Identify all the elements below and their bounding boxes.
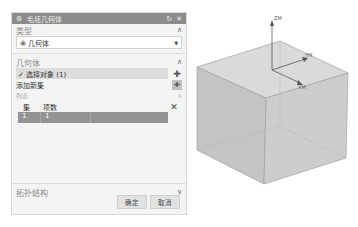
table-row[interactable]: 1 1 <box>18 112 168 123</box>
cancel-button[interactable]: 取消 <box>150 195 180 209</box>
select-object-row[interactable]: ✓ 选择对象 (1) ✚ <box>12 68 186 79</box>
chevron-up-icon[interactable]: ∧ <box>177 58 182 66</box>
section-geometry-label: 几何体 <box>16 57 40 68</box>
blank-geometry-dialog: ⚙ 毛坯几何体 ↻ ✕ 类型 ∧ ◉ 几何体 ▼ 几何体 ∧ ✓ 选择对象 (1… <box>11 12 187 215</box>
close-icon[interactable]: ✕ <box>176 15 182 23</box>
reset-icon[interactable]: ↻ <box>166 15 172 23</box>
graphics-viewport[interactable]: ZM YM XM <box>190 10 358 227</box>
type-dropdown-value: 几何体 <box>28 38 174 48</box>
column-set: 集 <box>18 102 43 112</box>
divider <box>12 53 186 54</box>
cell-count: 1 <box>41 112 91 123</box>
list-label: 列表 <box>16 91 28 100</box>
dialog-titlebar[interactable]: ⚙ 毛坯几何体 ↻ ✕ <box>12 13 186 24</box>
axis-label-y: YM <box>305 52 312 58</box>
chevron-down-icon: ▼ <box>174 40 178 46</box>
remove-icon[interactable]: ✕ <box>168 102 180 112</box>
select-object-label[interactable]: ✓ 选择对象 (1) <box>16 68 168 79</box>
add-new-set-button[interactable]: ✚ <box>172 80 182 90</box>
column-count: 项数 <box>43 102 168 112</box>
axis-label-z: ZM <box>274 15 282 21</box>
cell-set: 1 <box>18 112 41 123</box>
section-geometry-header[interactable]: 几何体 ∧ <box>12 56 186 68</box>
section-type-label: 类型 <box>16 25 32 36</box>
list-header[interactable]: 列表 ∧ <box>12 90 186 100</box>
add-object-icon[interactable]: ✚ <box>172 69 182 79</box>
type-dropdown[interactable]: ◉ 几何体 ▼ <box>16 36 182 49</box>
blank-cube <box>190 10 358 227</box>
list-column-header: 集 项数 ✕ <box>18 101 180 112</box>
add-new-set-row[interactable]: 添加新集 ✚ <box>12 79 186 90</box>
section-type-header[interactable]: 类型 ∧ <box>12 24 186 36</box>
gear-icon[interactable]: ⚙ <box>16 15 24 23</box>
dialog-footer: 确定 取消 <box>117 195 180 209</box>
set-list[interactable]: 集 项数 ✕ 1 1 <box>18 101 180 153</box>
ok-button[interactable]: 确定 <box>117 195 147 209</box>
dialog-title: 毛坯几何体 <box>27 14 162 24</box>
divider <box>12 183 186 184</box>
section-topology-label: 拓扑结构 <box>16 187 48 198</box>
chevron-up-icon[interactable]: ∧ <box>177 26 182 34</box>
chevron-up-icon[interactable]: ∧ <box>178 92 182 99</box>
axis-label-x: XM <box>298 84 306 90</box>
geometry-body-icon: ◉ <box>20 39 26 47</box>
add-new-set-label: 添加新集 <box>16 80 168 90</box>
